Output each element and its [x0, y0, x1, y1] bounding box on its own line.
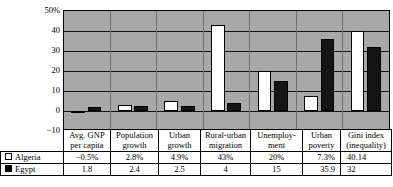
table-cell: 2.8% [111, 152, 159, 164]
bar-group [250, 11, 297, 129]
column-header: Unemploy-ment [251, 130, 303, 152]
bar-algeria [351, 31, 365, 111]
table-cell: 2.5 [159, 164, 201, 176]
table-cell: 43% [201, 152, 251, 164]
data-table: Avg. GNPper capitaPopulationgrowthUrbang… [0, 129, 391, 176]
table-cell: 4 [201, 164, 251, 176]
table-header-row: Avg. GNPper capitaPopulationgrowthUrbang… [1, 130, 392, 152]
table-cell: 15 [251, 164, 303, 176]
y-axis-tick-label: 10 [26, 86, 60, 95]
bar-algeria [304, 96, 318, 111]
y-axis-tick-label: 50% [26, 6, 60, 15]
column-header: Urbangrowth [159, 130, 201, 152]
bar-egypt [134, 106, 148, 111]
table-cell: 1.8 [64, 164, 111, 176]
table-cell: 35.9 [303, 164, 341, 176]
y-axis: 50%403020100−10 [22, 0, 60, 130]
column-header-line2: growth [113, 141, 156, 151]
table-cell: 40.14 [341, 152, 392, 164]
plot-area [63, 10, 390, 130]
bar-groups [64, 11, 389, 129]
filled-square-icon [5, 165, 12, 172]
bar-group [64, 11, 111, 129]
column-header: Avg. GNPper capita [64, 130, 111, 152]
y-axis-tick-label: 40 [26, 26, 60, 35]
table-cell: 4.9% [159, 152, 201, 164]
bar-algeria [211, 25, 225, 111]
column-header: Populationgrowth [111, 130, 159, 152]
bar-algeria [258, 71, 272, 111]
bar-group [157, 11, 204, 129]
chart-figure: 50%403020100−10 Avg. GNPper capitaPopula… [0, 0, 393, 187]
bar-group [204, 11, 251, 129]
column-header: Urbanpoverty [303, 130, 341, 152]
column-header-line2: (inequality) [343, 141, 389, 151]
table-row: Algeria−0.5%2.8%4.9%43%20%7.3%40.14 [1, 152, 392, 164]
bar-algeria [118, 105, 132, 111]
table: Avg. GNPper capitaPopulationgrowthUrbang… [0, 129, 392, 176]
bar-algeria [71, 111, 85, 113]
y-axis-tick-label: 0 [26, 106, 60, 115]
column-header: Gini index(inequality) [341, 130, 392, 152]
table-cell: 7.3% [303, 152, 341, 164]
table-cell: −0.5% [64, 152, 111, 164]
legend-entry-algeria: Algeria [1, 152, 64, 164]
table-cell: 32 [341, 164, 392, 176]
y-axis-tick-label: 30 [26, 46, 60, 55]
y-axis-tick-label: 20 [26, 66, 60, 75]
column-header-line2: per capita [66, 141, 108, 151]
table-cell: 2.4 [111, 164, 159, 176]
bar-egypt [367, 47, 381, 111]
legend-label: Egypt [15, 164, 35, 174]
bar-group [297, 11, 344, 129]
column-header-line2: poverty [305, 141, 338, 151]
legend-entry-egypt: Egypt [1, 164, 64, 176]
column-header-line2: growth [161, 141, 198, 151]
column-header-line2: migration [203, 141, 248, 151]
bar-egypt [227, 103, 241, 111]
bar-algeria [164, 101, 178, 111]
open-square-icon [5, 153, 12, 160]
bar-egypt [181, 106, 195, 111]
column-header-line2: ment [253, 141, 300, 151]
table-body: Algeria−0.5%2.8%4.9%43%20%7.3%40.14Egypt… [1, 152, 392, 176]
table-row: Egypt1.82.42.541535.932 [1, 164, 392, 176]
bar-group [111, 11, 158, 129]
header-corner-blank [1, 130, 64, 152]
bar-egypt [274, 81, 288, 111]
bar-group [343, 11, 389, 129]
column-header: Rural-urbanmigration [201, 130, 251, 152]
table-cell: 20% [251, 152, 303, 164]
legend-label: Algeria [15, 152, 41, 162]
bar-egypt [321, 39, 335, 111]
bar-egypt [88, 107, 102, 111]
